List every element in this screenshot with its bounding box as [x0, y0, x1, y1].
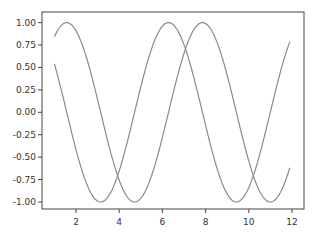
y-tick-label: 1.00: [16, 18, 36, 28]
y-axis: 1.000.750.500.250.00-0.25-0.50-0.75-1.00: [13, 18, 42, 207]
x-tick-label: 6: [160, 217, 166, 227]
x-axis: 24681012: [73, 209, 298, 227]
series-line-cos: [54, 23, 289, 202]
x-tick-label: 12: [286, 217, 297, 227]
line-chart: 1.000.750.500.250.00-0.25-0.50-0.75-1.00…: [0, 0, 320, 237]
x-tick-label: 10: [243, 217, 255, 227]
y-tick-label: 0.00: [16, 107, 36, 117]
x-tick-label: 8: [203, 217, 209, 227]
y-tick-label: 0.50: [16, 62, 36, 72]
y-tick-label: -0.50: [13, 152, 37, 162]
plot-lines: [54, 23, 289, 202]
x-tick-label: 4: [116, 217, 122, 227]
x-tick-label: 2: [73, 217, 79, 227]
series-line-sin: [54, 23, 289, 202]
y-tick-label: -0.75: [13, 175, 36, 185]
y-tick-label: -0.25: [13, 130, 36, 140]
y-tick-label: 0.25: [16, 85, 36, 95]
y-tick-label: -1.00: [13, 197, 37, 207]
y-tick-label: 0.75: [16, 40, 36, 50]
